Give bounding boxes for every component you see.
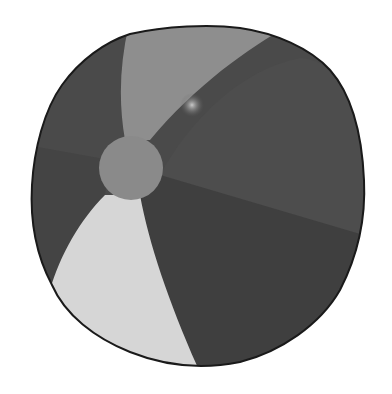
center-cap — [99, 136, 163, 200]
ball-highlight — [180, 93, 204, 117]
beach-ball-illustration — [0, 0, 392, 394]
